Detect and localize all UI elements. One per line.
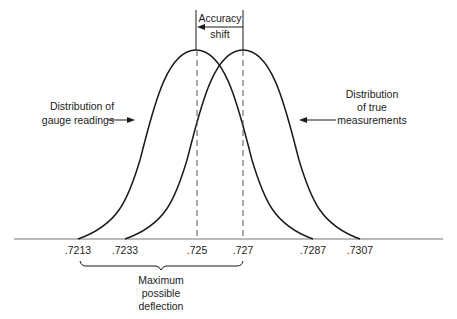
gauge-readings-label-line1: Distribution of: [50, 100, 114, 112]
max-deflection-label-line3: deflection: [139, 300, 184, 312]
tick-label-7213: .7213: [65, 244, 91, 256]
shift-arrowhead-icon: [197, 24, 205, 30]
tick-label-727: .727: [233, 244, 254, 256]
max-deflection-label-line2: possible: [142, 287, 181, 299]
max-deflection-label-line1: Maximum: [138, 274, 184, 286]
accuracy-shift-diagram: Accuracy shift Distribution of gauge rea…: [0, 0, 457, 319]
true-measurements-label-line2: of true: [357, 101, 387, 113]
accuracy-shift-label-line2: shift: [210, 28, 229, 40]
max-deflection-brace: [80, 261, 243, 270]
true-measurements-label-line3: measurements: [337, 114, 406, 126]
true-measurements-label-line1: Distribution: [346, 88, 399, 100]
gauge-readings-label-line2: gauge readings: [42, 114, 114, 126]
gauge-readings-curve: [78, 50, 313, 239]
tick-label-7233: .7233: [112, 244, 138, 256]
tick-label-725: .725: [187, 244, 208, 256]
tick-label-7307: .7307: [347, 244, 373, 256]
true-measurements-arrowhead-icon: [299, 117, 307, 123]
accuracy-shift-label-line1: Accuracy: [198, 12, 242, 24]
tick-label-7287: .7287: [300, 244, 326, 256]
gauge-readings-arrowhead-icon: [127, 117, 135, 123]
